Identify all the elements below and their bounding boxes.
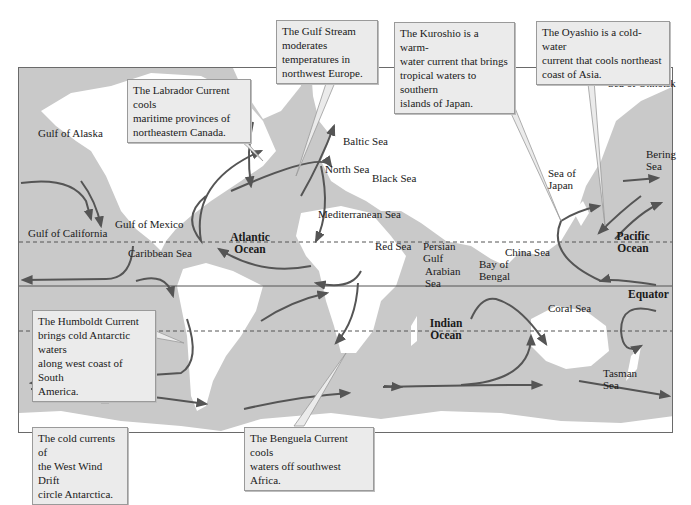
- callout-oyashio: The Oyashio is a cold-water current that…: [536, 21, 670, 85]
- label-caribbean-sea: Caribbean Sea: [128, 247, 192, 259]
- label-coral-sea: Coral Sea: [548, 302, 591, 314]
- label-pacific-ocean: Pacific Ocean: [612, 230, 654, 254]
- callout-labrador-current: The Labrador Current cools maritime prov…: [127, 79, 251, 143]
- callout-humboldt-current: The Humboldt Current brings cold Antarct…: [32, 310, 156, 402]
- label-indian-ocean: Indian Ocean: [425, 317, 467, 341]
- label-sea-of-japan: Sea of Japan: [548, 167, 576, 191]
- callout-gulf-stream: The Gulf Stream moderates temperatures i…: [276, 20, 378, 84]
- label-bay-of-bengal: Bay of Bengal: [479, 258, 510, 282]
- callout-west-wind-drift: The cold currents of the West Wind Drift…: [32, 427, 128, 505]
- south-america: [177, 263, 263, 411]
- label-china-sea: China Sea: [505, 246, 550, 258]
- label-north-sea: North Sea: [325, 163, 369, 175]
- label-equator: Equator: [628, 288, 669, 300]
- label-gulf-of-mexico: Gulf of Mexico: [115, 218, 183, 230]
- callout-kuroshio: The Kuroshio is a warm- water current th…: [394, 22, 515, 114]
- label-mediterranean-sea: Mediterranean Sea: [318, 208, 401, 220]
- label-black-sea: Black Sea: [372, 172, 416, 184]
- label-gulf-of-alaska: Gulf of Alaska: [38, 127, 103, 139]
- label-gulf-of-california: Gulf of California: [28, 227, 107, 239]
- label-persian-gulf: Persian Gulf: [423, 240, 455, 264]
- callout-benguela-current: The Benguela Current cools waters off so…: [244, 427, 374, 491]
- label-red-sea: Red Sea: [375, 240, 411, 252]
- label-baltic-sea: Baltic Sea: [343, 135, 388, 147]
- label-atlantic-ocean: Atlantic Ocean: [230, 231, 270, 255]
- label-tasman-sea: Tasman Sea: [603, 367, 637, 391]
- label-arabian-sea: Arabian Sea: [425, 265, 460, 289]
- label-bering-sea: Bering Sea: [646, 148, 676, 172]
